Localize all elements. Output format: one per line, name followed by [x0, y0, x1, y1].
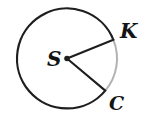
circle-diagram: S K C — [0, 0, 149, 127]
diagram-canvas: S K C — [0, 0, 149, 127]
center-point-dot — [64, 56, 70, 62]
circle-minor-arc-kc — [105, 40, 117, 91]
label-point-k: K — [119, 19, 139, 43]
label-point-c: C — [109, 92, 124, 114]
label-center-s: S — [47, 47, 61, 71]
radius-sk — [67, 40, 113, 59]
radius-sc — [67, 59, 105, 91]
